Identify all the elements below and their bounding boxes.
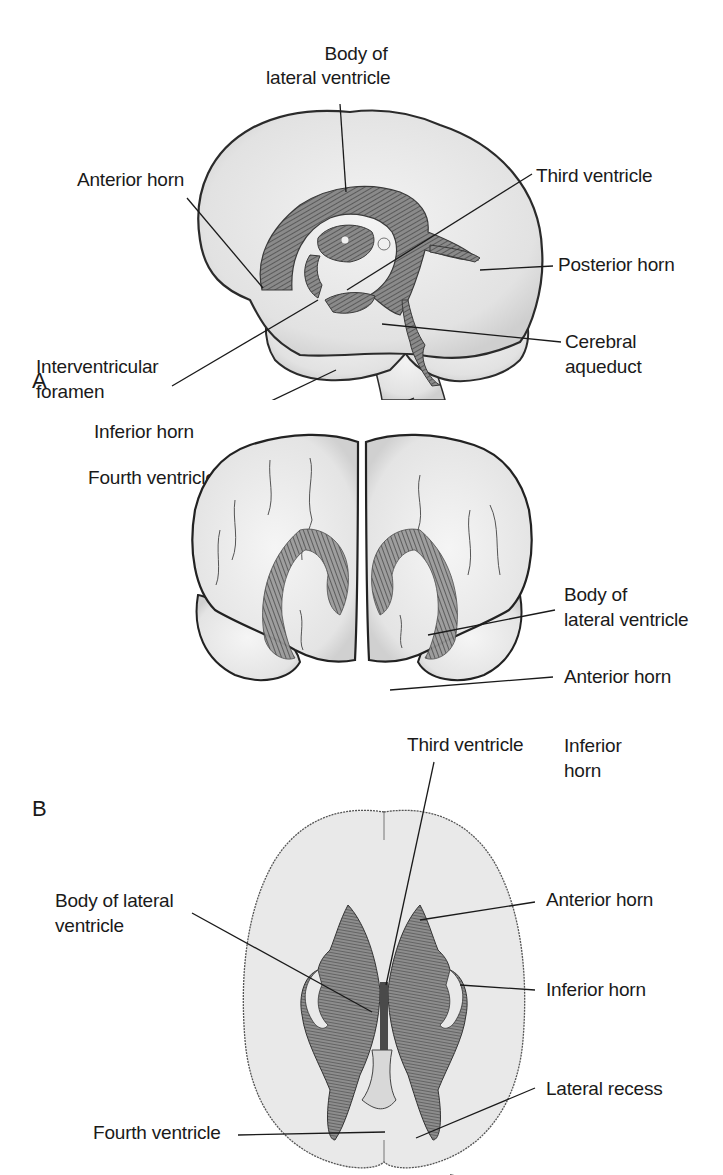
label-cerebral-aqueduct-line2: aqueduct [565, 355, 642, 378]
label-cerebral-aqueduct: Cerebral [565, 330, 636, 353]
label-inferior-horn: Inferior horn [546, 978, 646, 1001]
panel-a-lateral-view: Body of lateral ventricle Anterior horn … [0, 0, 723, 400]
label-lateral-recess: Lateral recess [546, 1077, 663, 1100]
label-body-lateral-ventricle-line2: lateral ventricle [266, 66, 390, 89]
brain-superior-illustration [0, 720, 723, 1175]
panel-c-superior-view: Third ventricle Body of lateral ventricl… [0, 720, 723, 1175]
panel-letter-a: A [32, 368, 47, 394]
label-body-lateral-ventricle: Body of [296, 42, 416, 65]
label-anterior-horn: Anterior horn [77, 168, 184, 191]
label-fourth-ventricle: Fourth ventricle [93, 1121, 221, 1144]
label-third-ventricle: Third ventricle [536, 164, 652, 187]
label-body-lateral-ventricle: Body of lateral [55, 889, 173, 912]
label-posterior-horn: Posterior horn [558, 253, 675, 276]
label-body-lateral-ventricle: Body of [564, 583, 627, 606]
label-third-ventricle: Third ventricle [407, 733, 523, 756]
panel-b-anterior-view: Body of lateral ventricle Anterior horn … [0, 400, 723, 720]
label-anterior-horn: Anterior horn [564, 665, 671, 688]
label-body-lateral-ventricle-line2: ventricle [55, 914, 124, 937]
label-anterior-horn: Anterior horn [546, 888, 653, 911]
label-body-lateral-ventricle-line2: lateral ventricle [564, 608, 688, 631]
label-interventricular-foramen: Interventricular [36, 355, 158, 378]
